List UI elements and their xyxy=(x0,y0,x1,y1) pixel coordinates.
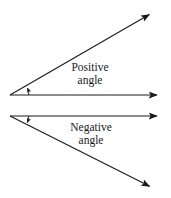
positive-angle-arc xyxy=(28,88,29,95)
angle-diagram-canvas xyxy=(0,0,171,198)
positive-angle-label-line1: Positive xyxy=(62,61,118,74)
negative-angle-label: Negative angle xyxy=(60,121,122,146)
positive-angle-label-line2: angle xyxy=(62,74,118,87)
positive-angle-label: Positive angle xyxy=(62,61,118,86)
angle-diagram-figure: Positive angle Negative angle xyxy=(0,0,171,198)
negative-angle-arc xyxy=(27,116,29,123)
negative-angle-label-line2: angle xyxy=(60,134,122,147)
negative-angle-label-line1: Negative xyxy=(60,121,122,134)
